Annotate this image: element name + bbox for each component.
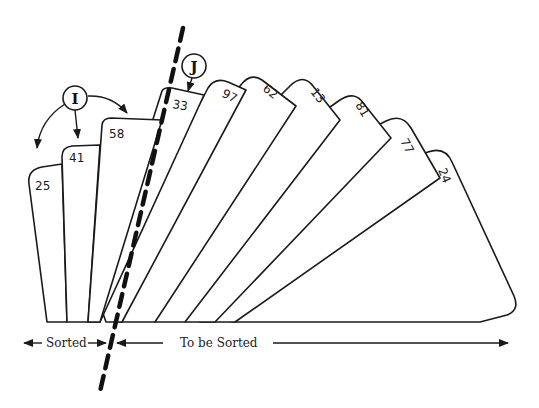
j-letter: J xyxy=(188,58,197,76)
arrow-to-33 xyxy=(188,78,192,91)
to-be-sorted-span: To be Sorted xyxy=(117,336,508,350)
card-value: 33 xyxy=(172,97,189,113)
sorted-label: Sorted xyxy=(46,336,87,350)
i-letter: I xyxy=(71,90,78,108)
sorted-span: Sorted xyxy=(24,336,106,350)
arrow-to-41 xyxy=(75,110,78,138)
card-value: 25 xyxy=(35,179,50,193)
to-be-sorted-label: To be Sorted xyxy=(180,336,258,350)
card-value: 41 xyxy=(69,151,84,165)
arrow-to-58 xyxy=(88,96,127,113)
card-value: 58 xyxy=(109,127,124,141)
card-25: 25 xyxy=(29,164,67,322)
marker-j: J xyxy=(182,54,206,91)
insertion-sort-diagram: 24 77 81 13 62 97 33 25 41 58 I xyxy=(0,0,539,408)
arrow-to-25 xyxy=(37,104,65,148)
